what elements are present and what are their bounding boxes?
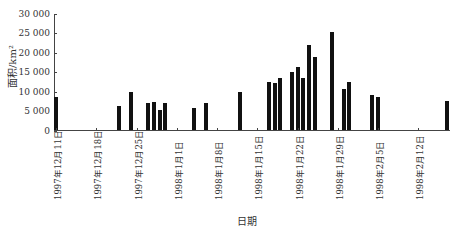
bar	[278, 78, 282, 130]
x-tick-mark	[177, 128, 178, 130]
bar	[204, 103, 208, 131]
bar	[267, 82, 271, 131]
bar	[163, 103, 167, 130]
x-tick-label: 1998年1月15日	[252, 135, 264, 200]
x-tick-label: 1997年12月25日	[132, 130, 144, 200]
bar	[342, 89, 346, 131]
bar	[152, 102, 156, 131]
bar	[158, 110, 162, 131]
x-axis-line	[54, 130, 450, 131]
x-tick-mark	[418, 128, 419, 130]
bar	[347, 82, 351, 131]
x-tick-label: 1998年1月22日	[293, 135, 305, 200]
x-tick-mark	[338, 128, 339, 130]
bar	[273, 83, 277, 131]
bar	[307, 45, 311, 130]
bar	[296, 67, 300, 130]
y-tick-label: 15 000	[0, 67, 50, 77]
bar	[370, 95, 374, 131]
y-tick-label: 20 000	[0, 48, 50, 58]
x-tick-label: 1998年2月12日	[413, 135, 425, 200]
x-tick-mark	[217, 128, 218, 130]
bar	[192, 108, 196, 131]
y-tick-label: 5 000	[0, 106, 50, 116]
bar	[376, 97, 380, 130]
y-tick-label: 10 000	[0, 87, 50, 97]
x-axis-label: 日期	[237, 213, 257, 228]
x-tick-label: 1998年1月1日	[172, 141, 184, 200]
bar	[301, 78, 305, 130]
bar	[117, 106, 121, 131]
x-tick-label: 1998年1月8日	[212, 141, 224, 200]
x-tick-label: 1997年12月18日	[91, 130, 103, 200]
bar	[290, 72, 294, 131]
bar	[445, 101, 449, 131]
x-tick-label: 1998年2月5日	[373, 141, 385, 200]
bar	[129, 92, 133, 130]
y-tick-label: 25 000	[0, 28, 50, 38]
bar-chart: 面积/km² 05 00010 00015 00020 00025 00030 …	[0, 0, 459, 234]
bar	[238, 92, 242, 131]
y-tick-label: 30 000	[0, 9, 50, 19]
x-tick-mark	[378, 128, 379, 130]
bar	[330, 32, 334, 130]
x-tick-label: 1997年12月11日	[51, 130, 63, 200]
bar	[54, 97, 58, 131]
bar	[146, 103, 150, 130]
x-tick-mark	[298, 128, 299, 130]
x-tick-mark	[257, 128, 258, 130]
bar	[313, 57, 317, 130]
x-tick-label: 1998年1月29日	[333, 135, 345, 200]
y-tick-label: 0	[0, 126, 50, 136]
